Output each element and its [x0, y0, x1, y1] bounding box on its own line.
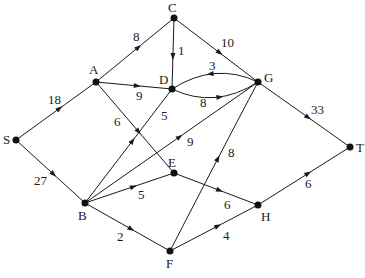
node-a-label: A [89, 62, 99, 77]
edge-a-c-capacity-label: 8 [133, 29, 140, 44]
node-b-label: B [78, 208, 87, 223]
edge-d-g-capacity-label: 8 [200, 95, 207, 110]
node-d-label: D [159, 72, 168, 87]
edge-a-e [96, 82, 174, 173]
edge-b-f-capacity-label: 2 [117, 229, 124, 244]
edge-b-d-capacity-label: 5 [161, 108, 168, 123]
edge-b-e [85, 173, 174, 203]
edge-f-h [170, 205, 258, 251]
arrowhead-icon [216, 187, 224, 194]
node-c-label: C [168, 0, 177, 15]
edge-b-g-capacity-label: 9 [187, 134, 194, 149]
node-labels-layer: SACDGTBEHF [3, 0, 364, 271]
arrowhead-icon [170, 53, 175, 60]
edge-g-t-capacity-label: 33 [311, 102, 324, 117]
node-c [171, 15, 178, 22]
edge-c-g [174, 18, 258, 82]
edge-e-h [174, 173, 258, 205]
node-a [93, 79, 100, 86]
edge-b-f [85, 203, 170, 251]
edge-c-d-capacity-label: 1 [178, 43, 185, 58]
edge-a-e-capacity-label: 6 [114, 114, 121, 129]
node-t-label: T [356, 140, 364, 155]
edge-g-t [258, 82, 350, 147]
edge-s-a-capacity-label: 18 [48, 92, 61, 107]
node-f-label: F [166, 256, 173, 271]
node-g [255, 79, 262, 86]
edge-f-h-capacity-label: 4 [223, 228, 230, 243]
edge-h-t [258, 147, 350, 205]
node-h-label: H [261, 209, 270, 224]
edge-s-a [16, 82, 96, 140]
node-d [169, 86, 176, 93]
edge-e-h-capacity-label: 6 [224, 197, 231, 212]
edge-h-t-capacity-label: 6 [305, 176, 312, 191]
node-f [167, 248, 174, 255]
node-g-label: G [264, 70, 273, 85]
edge-d-g [172, 82, 258, 98]
node-b [82, 200, 89, 207]
edge-g-d-capacity-label: 3 [209, 58, 216, 73]
node-h [255, 202, 262, 209]
node-s-label: S [3, 132, 10, 147]
edge-s-b-capacity-label: 27 [34, 173, 48, 188]
edge-b-e-capacity-label: 5 [138, 187, 145, 202]
edge-s-b [16, 140, 85, 203]
network-flow-diagram: 1827896110833359526846 SACDGTBEHF [0, 0, 365, 278]
arrowhead-icon [214, 154, 222, 163]
edge-a-d-capacity-label: 9 [136, 88, 143, 103]
arrowhead-icon [129, 183, 137, 190]
arrowhead-icon [127, 225, 136, 233]
edge-f-g-capacity-label: 8 [228, 145, 235, 160]
arrowhead-icon [175, 133, 184, 141]
node-e [171, 170, 178, 177]
node-e-label: E [168, 155, 176, 170]
node-s [13, 137, 20, 144]
edge-g-d [172, 73, 258, 89]
edge-c-g-capacity-label: 10 [221, 35, 234, 50]
edge-b-d [85, 89, 172, 203]
arrowhead-icon [214, 222, 223, 230]
node-t [347, 144, 354, 151]
